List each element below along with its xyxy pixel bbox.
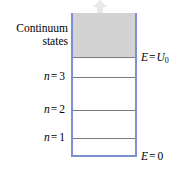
n3-value: 3 (58, 70, 66, 82)
continuum-states-line2: states (4, 35, 68, 48)
continuum-region (73, 13, 135, 57)
energy-level-n3 (73, 77, 135, 78)
quantum-number-label-n3: n=3 (30, 70, 66, 83)
eu0-equals: = (148, 51, 157, 63)
e0-value: 0 (157, 150, 165, 162)
energy-label-zero: E=0 (141, 150, 164, 163)
e0-energy-symbol: E (141, 150, 148, 162)
continuum-states-label: Continuum states (4, 22, 68, 48)
eu0-energy-symbol: E (141, 51, 148, 63)
n1-equals: = (50, 131, 59, 143)
n2-symbol: n (44, 103, 50, 115)
n2-value: 2 (58, 103, 66, 115)
quantum-number-label-n2: n=2 (30, 103, 66, 116)
eu0-subscript: 0 (165, 56, 169, 65)
e0-equals: = (148, 150, 157, 162)
energy-level-n1 (73, 138, 135, 139)
n3-symbol: n (44, 70, 50, 82)
quantum-number-label-n1: n=1 (30, 131, 66, 144)
potential-well-box (71, 13, 137, 157)
energy-label-u0: E=U0 (141, 51, 169, 66)
n2-equals: = (50, 103, 59, 115)
energy-level-u0 (73, 57, 135, 58)
n3-equals: = (50, 70, 59, 82)
n1-value: 1 (58, 131, 66, 143)
eu0-u-symbol: U (157, 51, 165, 63)
continuum-states-line1: Continuum (4, 22, 68, 35)
n1-symbol: n (44, 131, 50, 143)
energy-level-n2 (73, 110, 135, 111)
energy-level-diagram: Continuum states n=3 n=2 n=1 E=U0 E=0 (0, 0, 185, 172)
